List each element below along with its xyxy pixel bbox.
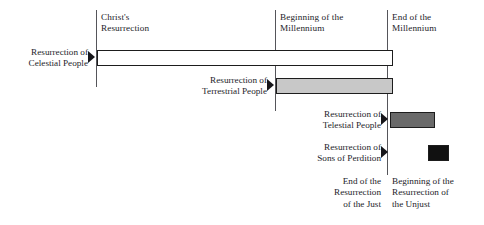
row-label-celestial: Resurrection of Celestial People [0,47,88,70]
bar-celestial [97,50,393,66]
pointer-terrestrial-icon [267,79,274,91]
column-header-beginning-millennium: Beginning of the Millennium [280,12,385,35]
christs-resurrection-divider-line [96,10,97,87]
row-label-sons-of-perdition: Resurrection of Sons of Perdition [290,142,381,165]
row-label-terrestrial: Resurrection of Terrestrial People [178,75,267,98]
footer-beginning-resurrection-unjust: Beginning of the Resurrection of the Unj… [392,176,484,210]
pointer-telestial-icon [381,113,388,125]
bar-telestial [390,112,435,128]
bar-sons-of-perdition [428,145,449,161]
footer-end-resurrection-just: End of the Resurrection of the Just [282,176,381,210]
row-label-telestial: Resurrection of Telestial People [295,109,381,132]
column-header-christs-resurrection: Christ's Resurrection [101,12,271,35]
resurrection-timeline-diagram: Christ's Resurrection Beginning of the M… [0,0,484,225]
bar-terrestrial [276,78,393,94]
column-header-end-millennium: End of the Millennium [392,12,482,35]
pointer-sons-of-perdition-icon [381,146,388,158]
pointer-celestial-icon [88,51,95,63]
